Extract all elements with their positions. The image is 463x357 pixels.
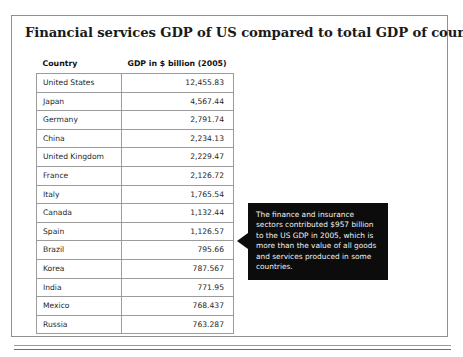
cell-gdp-value: 12,455.83 bbox=[122, 74, 234, 93]
cell-gdp-value: 2,229.47 bbox=[122, 148, 234, 167]
table-row: United States12,455.83 bbox=[37, 74, 234, 93]
cell-country: Russia bbox=[37, 315, 122, 334]
cell-gdp-value: 768.437 bbox=[122, 297, 234, 316]
table-row: France2,126.72 bbox=[37, 166, 234, 185]
cell-gdp-value: 1,126.57 bbox=[122, 222, 234, 241]
cell-country: China bbox=[37, 129, 122, 148]
table-row: China2,234.13 bbox=[37, 129, 234, 148]
table-row: Mexico768.437 bbox=[37, 297, 234, 316]
table-row: Russia763.287 bbox=[37, 315, 234, 334]
cell-gdp-value: 1,765.54 bbox=[122, 185, 234, 204]
column-header-gdp: GDP in $ billion (2005) bbox=[122, 59, 234, 74]
table-row: Canada1,132.44 bbox=[37, 204, 234, 223]
cell-country: France bbox=[37, 166, 122, 185]
cell-country: India bbox=[37, 278, 122, 297]
cell-country: Spain bbox=[37, 222, 122, 241]
cell-country: United States bbox=[37, 74, 122, 93]
table-row: Germany2,791.74 bbox=[37, 111, 234, 130]
cell-country: Canada bbox=[37, 204, 122, 223]
cell-country: Mexico bbox=[37, 297, 122, 316]
cell-gdp-value: 1,132.44 bbox=[122, 204, 234, 223]
cell-gdp-value: 763.287 bbox=[122, 315, 234, 334]
cell-country: Brazil bbox=[37, 241, 122, 260]
cell-country: United Kingdom bbox=[37, 148, 122, 167]
table-row: Japan4,567.44 bbox=[37, 92, 234, 111]
slide-frame: Financial services GDP of US compared to… bbox=[11, 15, 448, 337]
cell-gdp-value: 795.66 bbox=[122, 241, 234, 260]
table-row: Korea787.567 bbox=[37, 259, 234, 278]
table-row: United Kingdom2,229.47 bbox=[37, 148, 234, 167]
cell-country: Germany bbox=[37, 111, 122, 130]
table-row: Italy1,765.54 bbox=[37, 185, 234, 204]
table-row: India771.95 bbox=[37, 278, 234, 297]
column-header-country: Country bbox=[37, 59, 122, 74]
cell-gdp-value: 2,234.13 bbox=[122, 129, 234, 148]
cell-gdp-value: 2,791.74 bbox=[122, 111, 234, 130]
table-body: United States12,455.83Japan4,567.44Germa… bbox=[37, 74, 234, 334]
gdp-table: Country GDP in $ billion (2005) United S… bbox=[36, 59, 234, 334]
cell-gdp-value: 4,567.44 bbox=[122, 92, 234, 111]
footer-divider-upper bbox=[14, 345, 451, 346]
table-header: Country GDP in $ billion (2005) bbox=[37, 59, 234, 74]
footer-divider-lower bbox=[14, 349, 451, 350]
cell-gdp-value: 2,126.72 bbox=[122, 166, 234, 185]
callout-arrow-icon bbox=[237, 233, 248, 249]
table-header-row: Country GDP in $ billion (2005) bbox=[37, 59, 234, 74]
cell-country: Japan bbox=[37, 92, 122, 111]
cell-gdp-value: 787.567 bbox=[122, 259, 234, 278]
callout-box: The finance and insurance sectors contri… bbox=[248, 203, 388, 280]
cell-country: Italy bbox=[37, 185, 122, 204]
cell-country: Korea bbox=[37, 259, 122, 278]
callout-text: The finance and insurance sectors contri… bbox=[256, 210, 376, 271]
table-row: Brazil795.66 bbox=[37, 241, 234, 260]
page-title: Financial services GDP of US compared to… bbox=[25, 25, 437, 41]
table-row: Spain1,126.57 bbox=[37, 222, 234, 241]
cell-gdp-value: 771.95 bbox=[122, 278, 234, 297]
